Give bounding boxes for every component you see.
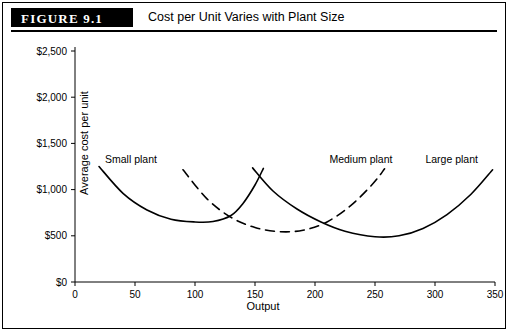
curve-label-small-plant: Small plant xyxy=(105,153,157,165)
chart-plot-area: Average cost per unit Output $0$500$1,00… xyxy=(3,33,505,328)
x-tick-label: 250 xyxy=(367,289,384,300)
curve-label-large-plant: Large plant xyxy=(425,153,478,165)
x-tick-label: 200 xyxy=(307,289,324,300)
x-tick-label: 0 xyxy=(72,289,78,300)
figure-number-badge: FIGURE 9.1 xyxy=(11,8,133,27)
figure-number-label: FIGURE 9.1 xyxy=(21,11,103,27)
y-tick-label: $500 xyxy=(45,230,68,241)
y-tick-label: $2,500 xyxy=(36,46,67,57)
figure-page: FIGURE 9.1 Cost per Unit Varies with Pla… xyxy=(0,0,511,333)
figure-frame: FIGURE 9.1 Cost per Unit Varies with Pla… xyxy=(2,2,506,329)
y-tick-label: $1,500 xyxy=(36,138,67,149)
x-tick-label: 300 xyxy=(427,289,444,300)
curve-label-medium-plant: Medium plant xyxy=(329,153,392,165)
curve-large-plant xyxy=(253,168,493,237)
header-divider xyxy=(11,30,497,32)
y-tick-label: $0 xyxy=(56,277,68,288)
x-tick-label: 50 xyxy=(129,289,141,300)
curve-small-plant xyxy=(99,167,263,223)
figure-header: FIGURE 9.1 Cost per Unit Varies with Pla… xyxy=(3,3,505,33)
x-tick-label: 350 xyxy=(487,289,504,300)
x-tick-label: 100 xyxy=(187,289,204,300)
figure-title: Cost per Unit Varies with Plant Size xyxy=(148,10,344,24)
y-tick-label: $1,000 xyxy=(36,184,67,195)
chart-svg: $0$500$1,000$1,500$2,000$2,5000501001502… xyxy=(3,33,505,328)
y-tick-label: $2,000 xyxy=(36,92,67,103)
x-tick-label: 150 xyxy=(247,289,264,300)
